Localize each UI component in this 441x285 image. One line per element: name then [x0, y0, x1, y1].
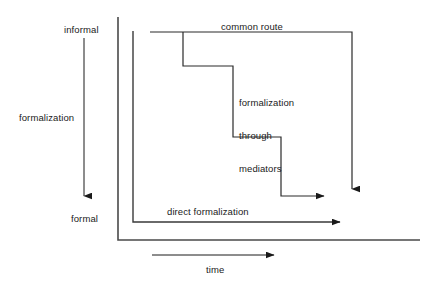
- path-label-mediators-line3: mediators: [239, 163, 294, 174]
- direct-formalization-path: [133, 31, 340, 222]
- path-label-mediators-line1: formalization: [239, 97, 294, 108]
- diagram-canvas: [0, 0, 441, 285]
- axis-label-formalization: formalization: [19, 112, 74, 123]
- formalization-diagram: informal formalization formal common rou…: [0, 0, 441, 285]
- path-label-common-route: common route: [221, 21, 283, 32]
- axis-label-formal: formal: [71, 213, 98, 224]
- path-label-mediators: formalization through mediators: [239, 75, 294, 196]
- path-label-direct-formalization: direct formalization: [167, 206, 249, 217]
- axis-label-time: time: [206, 264, 224, 275]
- axis-label-informal: informal: [64, 24, 99, 35]
- path-label-mediators-line2: through: [239, 130, 294, 141]
